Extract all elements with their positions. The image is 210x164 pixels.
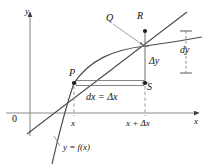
dy-label: dy bbox=[180, 45, 189, 55]
origin-label: 0 bbox=[12, 114, 17, 124]
figure-canvas bbox=[0, 0, 210, 164]
point-label-s: S bbox=[147, 82, 152, 92]
point-marker-R bbox=[143, 29, 147, 33]
dx-equals-delta-x-label: dx = Δx bbox=[86, 92, 118, 102]
y-axis-label: y bbox=[25, 7, 29, 16]
leader-line-Q bbox=[113, 24, 143, 45]
point-marker-P bbox=[72, 81, 76, 85]
point-label-p: P bbox=[69, 68, 75, 78]
delta-y-label: Δy bbox=[149, 56, 159, 66]
point-label-q: Q bbox=[106, 13, 113, 23]
curve-equation-label: y = f(x) bbox=[63, 143, 90, 152]
axes-group bbox=[6, 12, 199, 136]
differentials-figure: y x 0 P Q R S dy Δy dx = Δx x x + Δx y =… bbox=[0, 0, 210, 164]
point-label-r: R bbox=[137, 11, 143, 21]
tangent-line bbox=[27, 12, 187, 134]
x-tick-label-x-plus-delta-x: x + Δx bbox=[126, 119, 150, 128]
dx-measure-bracket bbox=[76, 81, 144, 86]
x-axis-label: x bbox=[194, 117, 198, 126]
point-markers bbox=[72, 29, 147, 85]
x-tick-label-x: x bbox=[71, 119, 75, 128]
